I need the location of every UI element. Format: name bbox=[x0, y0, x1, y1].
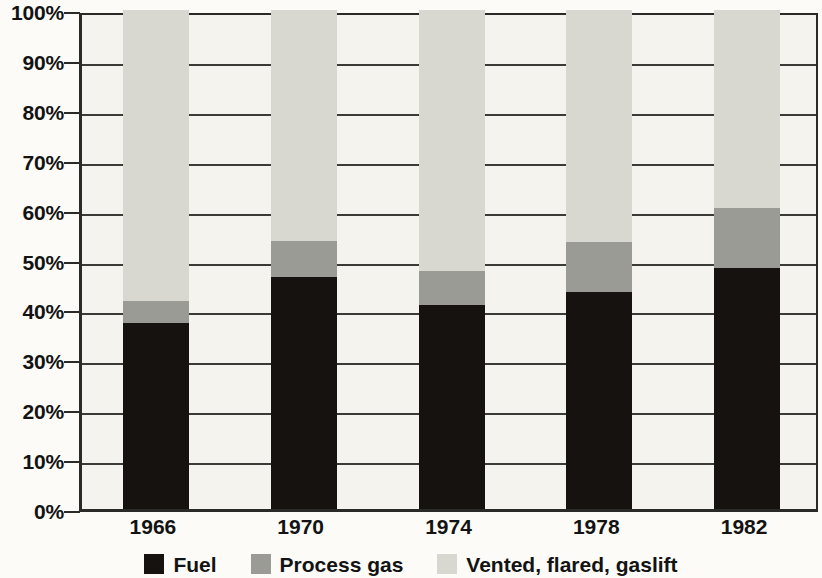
bar-group-1970[interactable] bbox=[271, 10, 337, 509]
y-tick-label: 50% bbox=[0, 252, 64, 273]
bar-segment[interactable] bbox=[714, 208, 780, 268]
x-tick-label: 1970 bbox=[246, 516, 356, 537]
y-tick-mark bbox=[64, 112, 80, 114]
bar-segment[interactable] bbox=[566, 242, 632, 292]
y-tick-label: 10% bbox=[0, 451, 64, 472]
bar-segment[interactable] bbox=[566, 292, 632, 509]
y-tick-label: 70% bbox=[0, 152, 64, 173]
legend-item-fuel: Fuel bbox=[144, 554, 216, 575]
legend-swatch-icon bbox=[437, 554, 457, 574]
bar-segment[interactable] bbox=[271, 241, 337, 277]
bar-segment[interactable] bbox=[714, 268, 780, 509]
x-tick-label: 1978 bbox=[541, 516, 651, 537]
y-tick-mark bbox=[64, 511, 80, 513]
y-tick-mark bbox=[64, 461, 80, 463]
bar-segment[interactable] bbox=[419, 271, 485, 305]
legend-label: Process gas bbox=[280, 554, 404, 575]
y-tick-mark bbox=[64, 361, 80, 363]
bar-segment[interactable] bbox=[123, 10, 189, 301]
x-tick-label: 1974 bbox=[394, 516, 504, 537]
chart-legend: Fuel Process gas Vented, flared, gaslift bbox=[0, 550, 822, 578]
y-tick-mark bbox=[64, 12, 80, 14]
x-axis-labels: 1966 1970 1974 1978 1982 bbox=[79, 516, 818, 546]
bar-segment[interactable] bbox=[123, 323, 189, 509]
legend-swatch-icon bbox=[251, 554, 271, 574]
y-tick-label: 0% bbox=[0, 501, 64, 522]
bar-segment[interactable] bbox=[123, 301, 189, 323]
legend-item-process-gas: Process gas bbox=[251, 554, 404, 575]
y-tick-mark bbox=[64, 262, 80, 264]
bar-segment[interactable] bbox=[566, 10, 632, 242]
bar-group-1982[interactable] bbox=[714, 10, 780, 509]
legend-label: Vented, flared, gaslift bbox=[466, 554, 677, 575]
x-tick-label: 1982 bbox=[689, 516, 799, 537]
legend-label: Fuel bbox=[173, 554, 216, 575]
bar-group-1966[interactable] bbox=[123, 10, 189, 509]
y-tick-label: 30% bbox=[0, 351, 64, 372]
y-tick-mark bbox=[64, 162, 80, 164]
plot-area bbox=[79, 13, 818, 512]
bar-segment[interactable] bbox=[419, 305, 485, 509]
y-tick-label: 60% bbox=[0, 202, 64, 223]
legend-item-vented-flared-gaslift: Vented, flared, gaslift bbox=[437, 554, 677, 575]
y-tick-mark bbox=[64, 411, 80, 413]
bar-group-1978[interactable] bbox=[566, 10, 632, 509]
bar-group-1974[interactable] bbox=[419, 10, 485, 509]
bar-segment[interactable] bbox=[271, 277, 337, 509]
y-tick-label: 100% bbox=[0, 2, 64, 23]
y-tick-mark bbox=[64, 311, 80, 313]
bar-segment[interactable] bbox=[714, 10, 780, 208]
legend-swatch-icon bbox=[144, 554, 164, 574]
x-tick-label: 1966 bbox=[98, 516, 208, 537]
y-tick-mark bbox=[64, 62, 80, 64]
y-tick-label: 20% bbox=[0, 401, 64, 422]
stacked-bar-chart: 100% 90% 80% 70% 60% 50% 40% 30% 20% 10%… bbox=[0, 0, 822, 578]
bar-segment[interactable] bbox=[419, 10, 485, 271]
y-axis-labels: 100% 90% 80% 70% 60% 50% 40% 30% 20% 10%… bbox=[0, 0, 64, 520]
y-tick-mark bbox=[64, 212, 80, 214]
y-tick-label: 90% bbox=[0, 52, 64, 73]
bar-segment[interactable] bbox=[271, 10, 337, 241]
y-tick-label: 40% bbox=[0, 301, 64, 322]
y-tick-label: 80% bbox=[0, 102, 64, 123]
